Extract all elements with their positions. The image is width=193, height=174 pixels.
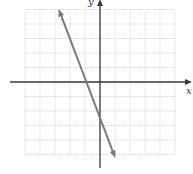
y-axis-label: y xyxy=(87,0,94,7)
coordinate-plane: x y xyxy=(0,0,193,174)
x-axis-label: x xyxy=(186,85,192,96)
plotted-line xyxy=(60,12,114,154)
